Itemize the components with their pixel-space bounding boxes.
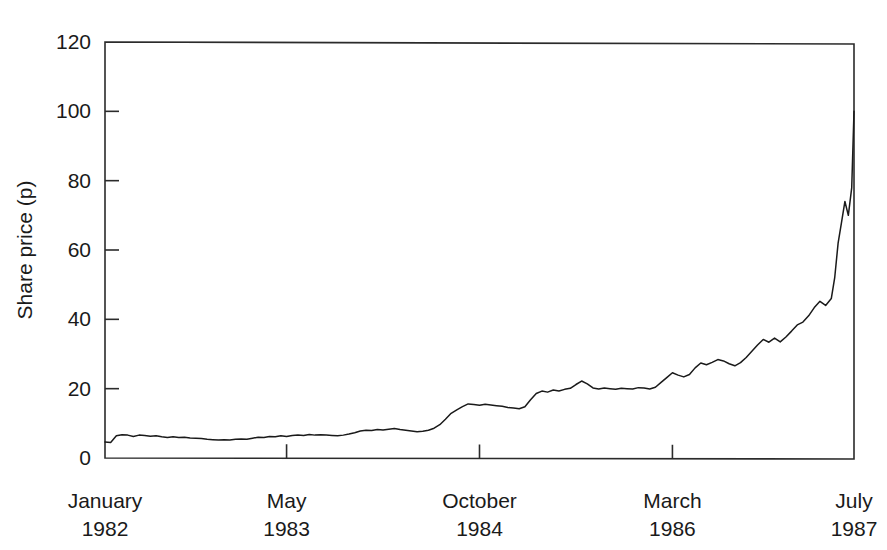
x-axis-ticks — [287, 444, 673, 459]
x-tick-label-year: 1986 — [649, 517, 696, 540]
x-tick-label-year: 1982 — [82, 517, 129, 540]
plot-frame — [105, 42, 854, 459]
share-price-chart-figure: 020406080100120 January1982May1983Octobe… — [0, 0, 887, 550]
x-tick-label-year: 1984 — [456, 517, 503, 540]
y-axis-ticks — [105, 111, 119, 388]
x-tick-label-year: 1983 — [263, 517, 310, 540]
x-tick-label-year: 1987 — [831, 517, 878, 540]
x-axis-tick-labels: January1982May1983October1984March1986Ju… — [68, 489, 878, 540]
plot-border — [105, 42, 854, 459]
chart-canvas: 020406080100120 January1982May1983Octobe… — [0, 0, 887, 550]
y-tick-label: 40 — [68, 307, 91, 330]
y-tick-label: 80 — [68, 169, 91, 192]
series-line-share-price — [105, 111, 854, 442]
x-tick-label-month: January — [68, 489, 143, 512]
y-axis-tick-labels: 020406080100120 — [56, 30, 91, 469]
x-tick-label-month: May — [267, 489, 307, 512]
y-tick-label: 60 — [68, 238, 91, 261]
x-tick-label-month: October — [442, 489, 517, 512]
y-axis-title: Share price (p) — [13, 181, 36, 320]
x-tick-label-month: July — [835, 489, 873, 512]
y-tick-label: 0 — [79, 446, 91, 469]
y-tick-label: 120 — [56, 30, 91, 53]
x-tick-label-month: March — [643, 489, 701, 512]
series-group — [105, 111, 854, 442]
y-tick-label: 100 — [56, 99, 91, 122]
y-tick-label: 20 — [68, 377, 91, 400]
